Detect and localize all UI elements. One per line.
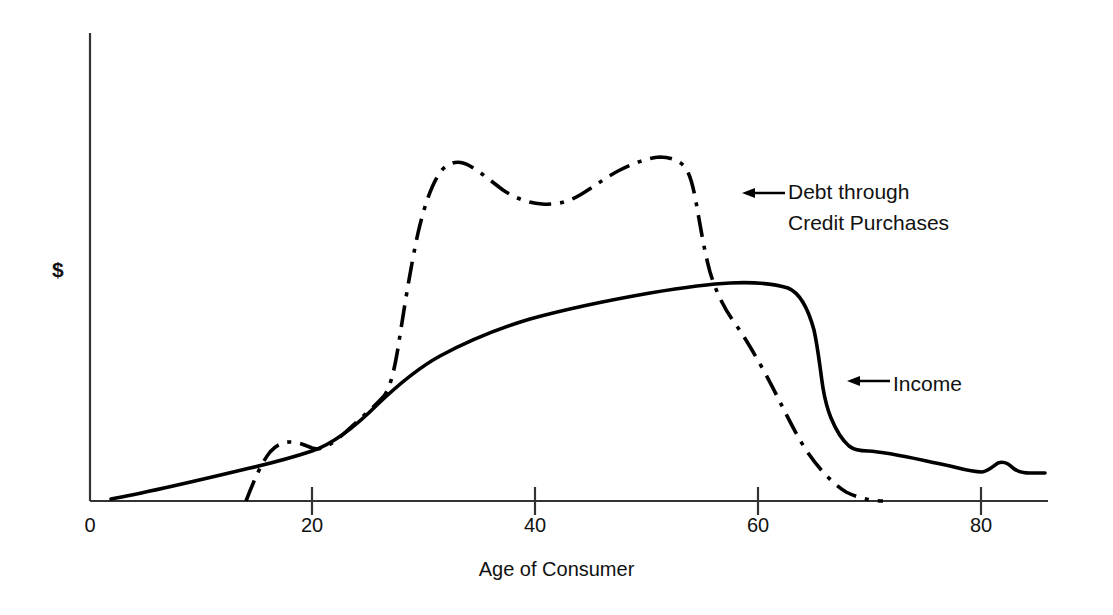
debt-callout-label-line2: Credit Purchases (788, 207, 949, 238)
x-axis-title: Age of Consumer (479, 558, 635, 581)
x-tick-label-60: 60 (747, 514, 769, 537)
debt-callout-label-line1: Debt through (788, 176, 949, 207)
x-tick-label-0: 0 (84, 514, 95, 537)
x-tick-label-40: 40 (524, 514, 546, 537)
debt-callout-arrow (742, 188, 785, 198)
income-callout-arrow (847, 376, 890, 386)
income-callout-label: Income (893, 368, 962, 399)
x-tick-label-80: 80 (970, 514, 992, 537)
x-tick-label-20: 20 (301, 514, 323, 537)
debt-callout-label: Debt through Credit Purchases (788, 176, 949, 238)
chart-figure: 0 20 40 60 80 $ Age of Consumer Debt thr… (0, 0, 1113, 615)
chart-plot-area (0, 0, 1113, 615)
y-axis-title: $ (52, 258, 64, 282)
